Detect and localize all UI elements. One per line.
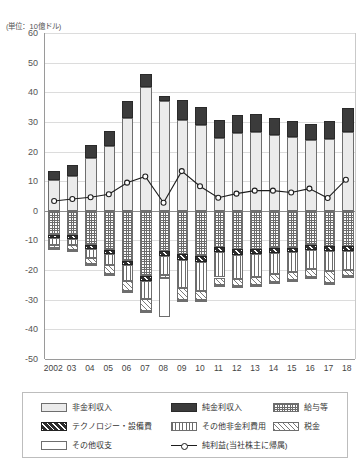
chart-page: (単位：10億ドル) 6050403020100-10-20-30-40-50 … <box>0 0 364 472</box>
legend-item-other: その他収支 <box>41 439 112 452</box>
legend-swatch-tax <box>273 422 299 431</box>
y-tick-label: 50 <box>0 58 38 68</box>
y-tick-label: 10 <box>0 176 38 186</box>
x-tick-label: 03 <box>67 363 76 373</box>
legend-item-netint: 純金利収入 <box>171 401 242 414</box>
net-income-marker <box>106 192 111 197</box>
legend-swatch-tech <box>41 422 67 431</box>
y-tick-label: -10 <box>0 235 38 245</box>
x-tick-label: 07 <box>140 363 149 373</box>
net-income-marker <box>252 188 257 193</box>
legend-item-tax: 税金 <box>273 420 320 433</box>
net-income-marker <box>70 196 75 201</box>
legend-swatch-other <box>41 441 67 450</box>
legend-label: テクノロジー・設備費 <box>72 423 152 431</box>
chart-legend: 非金利収入純金利収入給与等テクノロジー・設備費その他非金利費用税金その他収支純利… <box>22 392 348 458</box>
y-tick-label: 0 <box>0 206 38 216</box>
gridline--50 <box>45 359 355 360</box>
legend-label: 純金利収入 <box>202 404 242 412</box>
y-tick-label: 60 <box>0 28 38 38</box>
legend-item-comp: 給与等 <box>273 401 328 414</box>
x-tick-label: 13 <box>250 363 259 373</box>
x-tick-label: 14 <box>269 363 278 373</box>
legend-label: 純利益(当社株主に帰属) <box>202 442 287 450</box>
legend-swatch-comp <box>273 403 299 412</box>
legend-label: 給与等 <box>304 404 328 412</box>
net-income-marker <box>179 169 184 174</box>
net-income-marker <box>52 199 57 204</box>
x-tick-label: 12 <box>232 363 241 373</box>
x-tick-label: 11 <box>214 363 223 373</box>
net-income-marker <box>270 188 275 193</box>
net-income-marker <box>216 195 221 200</box>
x-tick-label: 04 <box>85 363 94 373</box>
x-tick-label: 17 <box>324 363 333 373</box>
legend-item-nonint: 非金利収入 <box>41 401 112 414</box>
legend-label: 非金利収入 <box>72 404 112 412</box>
legend-line-swatch <box>171 441 197 450</box>
x-tick-label: 18 <box>342 363 351 373</box>
legend-item-tech: テクノロジー・設備費 <box>41 420 152 433</box>
net-income-marker <box>143 174 148 179</box>
legend-item-netincome: 純利益(当社株主に帰属) <box>171 439 287 452</box>
y-tick-label: -20 <box>0 265 38 275</box>
y-tick-label: -50 <box>0 354 38 364</box>
x-tick-label: 06 <box>122 363 131 373</box>
legend-swatch-netint <box>171 403 197 412</box>
plot-area <box>44 33 356 359</box>
net-income-marker <box>125 180 130 185</box>
net-income-line <box>45 33 355 359</box>
x-tick-label: 09 <box>177 363 186 373</box>
y-tick-label: -40 <box>0 324 38 334</box>
y-tick-label: 30 <box>0 117 38 127</box>
net-income-marker <box>289 190 294 195</box>
net-income-marker <box>88 195 93 200</box>
y-tick-label: 40 <box>0 87 38 97</box>
x-tick-label: 16 <box>305 363 314 373</box>
x-tick-label: 05 <box>104 363 113 373</box>
x-tick-label: 15 <box>287 363 296 373</box>
legend-label: その他収支 <box>72 442 112 450</box>
legend-label: その他非金利費用 <box>202 423 266 431</box>
legend-swatch-othnon <box>171 422 197 431</box>
legend-swatch-nonint <box>41 403 67 412</box>
x-tick-label: 10 <box>195 363 204 373</box>
y-tick-label: 20 <box>0 147 38 157</box>
x-tick-label: 08 <box>159 363 168 373</box>
legend-item-othnon: その他非金利費用 <box>171 420 266 433</box>
x-tick-label: 2002 <box>44 363 63 373</box>
net-income-marker <box>325 196 330 201</box>
net-income-marker <box>343 177 348 182</box>
net-income-marker <box>307 186 312 191</box>
net-income-marker <box>198 184 203 189</box>
legend-label: 税金 <box>304 423 320 431</box>
y-tick-label: -30 <box>0 295 38 305</box>
net-income-marker <box>161 200 166 205</box>
net-income-marker <box>234 191 239 196</box>
